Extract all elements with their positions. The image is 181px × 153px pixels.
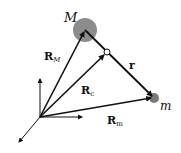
diagram-svg: M m RM Rc Rm r (0, 0, 181, 153)
label-small-mass: m (160, 99, 171, 113)
label-Rm: Rm (107, 114, 123, 128)
label-Rc: Rc (81, 84, 94, 98)
label-RM: RM (44, 50, 61, 64)
label-big-mass: M (63, 10, 78, 25)
label-r: r (129, 59, 135, 72)
axis-down-left (19, 117, 40, 142)
vector-RM (40, 32, 84, 117)
center-of-mass-marker (104, 49, 110, 55)
two-body-diagram: M m RM Rc Rm r (0, 0, 181, 153)
